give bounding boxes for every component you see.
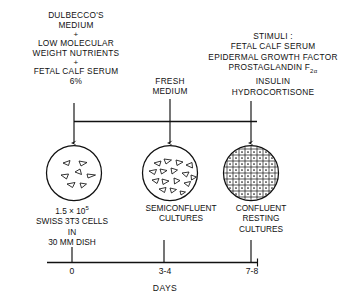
dish-1-cells: [61, 161, 96, 189]
dish-2-cells: [149, 159, 197, 195]
timeline-axis: [47, 240, 258, 267]
diagram-graphics: [0, 0, 358, 304]
culture-dish-3: [224, 146, 279, 201]
culture-dish-2: [143, 146, 198, 201]
culture-dish-1: [47, 146, 102, 201]
